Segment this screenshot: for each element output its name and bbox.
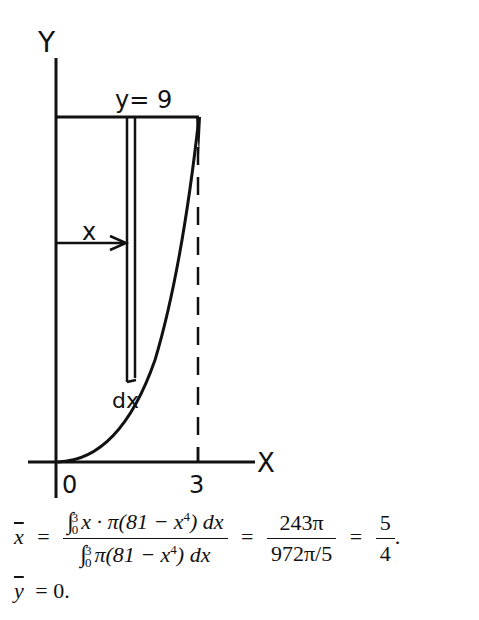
value-denominator: 972π/5 <box>267 539 336 567</box>
period: . <box>395 524 401 549</box>
y-axis-label: Y <box>37 26 56 59</box>
strip-distance-label: x <box>82 218 96 246</box>
result-denominator: 4 <box>376 539 395 567</box>
equals-sign: = <box>241 524 253 549</box>
origin-tick-label: 0 <box>62 471 77 499</box>
x-axis-label: X <box>257 448 275 478</box>
numerator-tail: ) dx <box>190 509 224 534</box>
centroid-diagram: Y X y= 9 x dx 0 3 <box>0 0 479 510</box>
value-numerator: 243π <box>267 510 336 539</box>
result-fraction: 5 4 <box>376 510 395 567</box>
ybar-value: = 0. <box>35 578 69 603</box>
integral-fraction: ∫30x · π(81 − x4) dx ∫30π(81 − x4) dx <box>63 508 227 569</box>
xbar-equation: x = ∫30x · π(81 − x4) dx ∫30π(81 − x4) d… <box>14 508 400 569</box>
value-fraction: 243π 972π/5 <box>267 510 336 567</box>
xbar-symbol: x <box>14 524 24 549</box>
equals-sign: = <box>350 524 362 549</box>
result-numerator: 5 <box>376 510 395 539</box>
x-end-tick-label: 3 <box>189 471 204 499</box>
numerator-integrand: x · π(81 − x <box>81 509 183 534</box>
denominator-integrand: π(81 − x <box>94 542 170 567</box>
top-line-label: y= 9 <box>115 86 172 114</box>
strip-width-label: dx <box>112 388 139 413</box>
lower-limit: 0 <box>72 524 79 536</box>
strip-bottom <box>127 380 136 382</box>
lower-limit: 0 <box>85 557 92 569</box>
equals-sign: = <box>37 524 49 549</box>
integral-denominator: ∫30π(81 − x4) dx <box>63 539 227 569</box>
ybar-symbol: y <box>14 578 24 603</box>
ybar-equation: y = 0. <box>14 578 70 604</box>
denominator-tail: ) dx <box>177 542 211 567</box>
integral-numerator: ∫30x · π(81 − x4) dx <box>63 508 227 539</box>
